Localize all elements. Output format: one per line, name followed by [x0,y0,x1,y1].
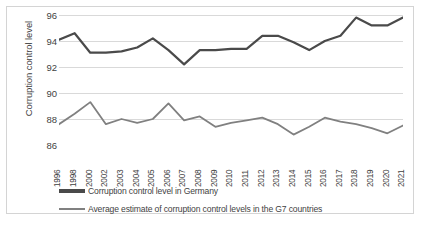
y-axis-title: Corruption control level [23,4,34,134]
legend-item-1[interactable]: Corruption control level in Germany [59,183,409,199]
legend-swatch-icon [59,189,85,192]
plot-area: Corruption control level 868890929496 19… [7,7,415,215]
legend-label: Average estimate of corruption control l… [88,204,322,214]
legend-label: Corruption control level in Germany [88,186,218,196]
series-line-2 [59,102,403,135]
gridlines [59,15,403,145]
legend-item-2[interactable]: Average estimate of corruption control l… [59,201,409,217]
y-axis-tick-label: 90 [46,88,57,99]
legend-swatch-icon [59,208,85,211]
y-axis-tick-label: 86 [46,140,57,151]
y-axis-tick-label: 88 [46,114,57,125]
chart-container: Corruption control level 868890929496 19… [6,6,414,214]
y-axis-tick-label: 96 [46,10,57,21]
y-axis-tick-labels: 868890929496 [37,15,57,147]
y-axis-tick-label: 92 [46,62,57,73]
y-axis-tick-label: 94 [46,36,57,47]
chart-legend: Corruption control level in GermanyAvera… [59,183,409,219]
line-chart-plot [59,15,403,145]
data-series-group [59,18,403,135]
x-axis-tick-labels: 1996199820002002200320042005200620072008… [59,143,403,187]
